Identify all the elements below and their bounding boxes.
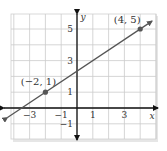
y-tick-label: 5 [67, 24, 73, 34]
x-tick-label: 3 [122, 110, 128, 120]
coordinate-graph: −3−113−1135xy(−2, 1)(4, 5) [0, 0, 167, 151]
data-point [138, 26, 143, 31]
y-tick-label: 3 [67, 56, 73, 66]
data-point [43, 90, 48, 95]
point-label: (−2, 1) [21, 76, 56, 87]
x-tick-label: 1 [90, 110, 96, 120]
y-tick-label: −1 [60, 119, 73, 129]
x-tick-label: −3 [23, 110, 37, 120]
y-axis-label: y [79, 12, 86, 22]
point-label: (4, 5) [114, 14, 141, 25]
x-axis-label: x [149, 111, 154, 121]
y-tick-label: 1 [67, 87, 73, 97]
